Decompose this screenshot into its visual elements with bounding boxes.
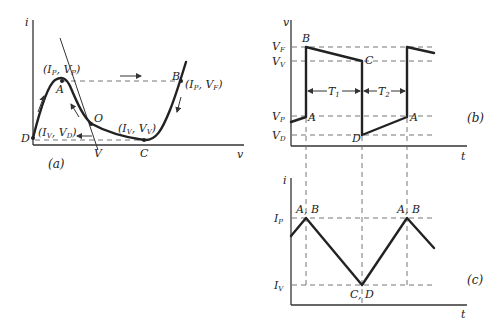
panel-b-v-axis-label: v bbox=[283, 16, 290, 29]
panel-b-label-vp: VP bbox=[272, 110, 285, 124]
panel-b-voltage-waveform: v t VF VV VP VD T1 T2 A B C D A (b) bbox=[272, 16, 484, 163]
panel-c-caption: (c) bbox=[467, 273, 483, 287]
panel-a-v-axis-label: v bbox=[237, 148, 244, 161]
panel-a-label-D: D bbox=[20, 132, 30, 145]
panel-b-label-vv: VV bbox=[272, 55, 286, 69]
panel-a-label-C: C bbox=[140, 147, 149, 160]
panel-a-label-B-coords: (IP, VF) bbox=[185, 78, 222, 92]
panel-b-label-D: D bbox=[351, 132, 361, 145]
panel-b-label-B: B bbox=[301, 32, 310, 45]
panel-c-i-axis-label: i bbox=[283, 174, 287, 187]
panel-b-t-axis-label: t bbox=[461, 150, 466, 163]
panel-b-label-A2: A bbox=[409, 111, 418, 124]
tunnel-diode-oscillator-diagram: i v A (IP, VP) B (IP, VF) C (IV, VV) D (… bbox=[0, 0, 500, 328]
panel-a-label-V: V bbox=[94, 147, 103, 160]
panel-b-caption: (b) bbox=[467, 111, 484, 125]
panel-b-label-t1: T1 bbox=[328, 85, 340, 99]
panel-c-current-waveform: i t IP IV A, B C, D A, B (c) bbox=[273, 174, 483, 321]
panel-a-point-D-dot bbox=[31, 136, 35, 140]
panel-c-label-trough: C, D bbox=[350, 288, 374, 301]
panel-c-label-peak1: A, B bbox=[295, 203, 319, 216]
panel-b-label-C: C bbox=[365, 54, 374, 67]
panel-c-label-iv: IV bbox=[273, 279, 284, 293]
panel-c-label-peak2: A, B bbox=[396, 203, 420, 216]
panel-a-label-B: B bbox=[171, 70, 180, 83]
panel-a-label-A-coords: (IP, VP) bbox=[43, 63, 80, 77]
panel-b-label-t2: T2 bbox=[378, 85, 390, 99]
panel-b-label-vf: VF bbox=[272, 40, 286, 54]
panel-a-label-A: A bbox=[55, 83, 64, 96]
panel-c-label-ip: IP bbox=[273, 212, 283, 226]
panel-c-waveform bbox=[291, 218, 434, 285]
panel-a-i-axis-label: i bbox=[25, 16, 29, 29]
panel-a-label-C-coords: (IV, VV) bbox=[118, 122, 156, 136]
panel-a-arrow-down-icon bbox=[177, 97, 181, 112]
panel-b-label-A1: A bbox=[307, 111, 316, 124]
panel-a-caption: (a) bbox=[48, 157, 65, 171]
panel-c-t-axis-label: t bbox=[461, 308, 466, 321]
panel-a-label-O: O bbox=[94, 112, 103, 125]
panel-b-label-vd: VD bbox=[272, 129, 286, 143]
panel-a-point-C-dot bbox=[142, 138, 146, 142]
panel-a-point-O-dot bbox=[89, 122, 93, 126]
panel-a-label-D-coords: (IV, VD) bbox=[38, 126, 77, 140]
panel-a-iv-characteristic: i v A (IP, VP) B (IP, VF) C (IV, VV) D (… bbox=[20, 16, 244, 171]
